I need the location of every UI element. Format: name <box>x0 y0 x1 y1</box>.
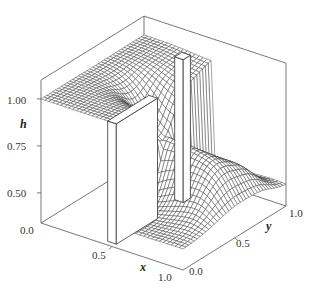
x-tick-00: 0.0 <box>20 224 34 236</box>
y-tick-10: 1.0 <box>289 207 303 219</box>
x-tick-10: 1.0 <box>158 271 172 283</box>
wireframe-surface <box>41 35 286 249</box>
y-tick-05: 0.5 <box>236 237 250 249</box>
x-axis-label: x <box>139 260 146 274</box>
z-tick-100: 1.00 <box>7 94 27 106</box>
z-tick-050: 0.50 <box>7 187 27 199</box>
surface-plot: 1.00 0.75 0.50 h 0.0 0.5 1.0 x 0.0 0.5 1… <box>0 0 315 298</box>
x-tick-05: 0.5 <box>92 249 106 261</box>
y-tick-00: 0.0 <box>189 265 203 277</box>
z-tick-075: 0.75 <box>7 140 27 152</box>
z-axis-label: h <box>20 117 27 131</box>
y-axis-label: y <box>264 219 272 233</box>
